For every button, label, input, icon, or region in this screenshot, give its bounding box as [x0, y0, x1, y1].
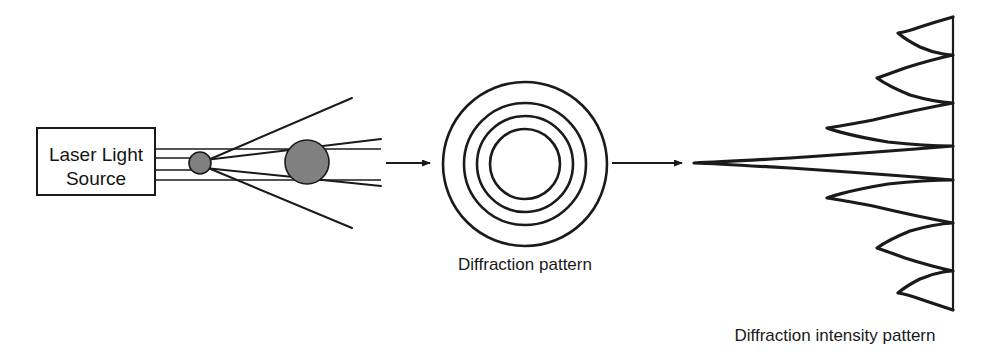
diffraction-diagram: Laser Light Source — [0, 0, 987, 359]
diffraction-ring-1 — [490, 129, 560, 199]
large-particle — [285, 140, 329, 184]
diffraction-pattern-caption: Diffraction pattern — [458, 255, 592, 274]
diffraction-rings-group — [443, 82, 607, 246]
laser-source-label-line1: Laser Light — [49, 144, 144, 165]
intensity-pattern-group — [694, 17, 953, 310]
diagram-canvas: Laser Light Source — [0, 0, 987, 359]
particles-group — [189, 140, 329, 184]
laser-source-label-line2: Source — [66, 168, 126, 189]
laser-source-group: Laser Light Source — [37, 128, 155, 195]
diffraction-ring-3 — [464, 103, 586, 225]
intensity-pattern-caption: Diffraction intensity pattern — [735, 326, 936, 345]
diffraction-ring-2 — [477, 116, 573, 212]
scattered-ray-upper-steep — [201, 98, 352, 163]
intensity-curve — [694, 17, 953, 310]
diffraction-ring-4 — [443, 82, 607, 246]
small-particle — [189, 152, 211, 174]
